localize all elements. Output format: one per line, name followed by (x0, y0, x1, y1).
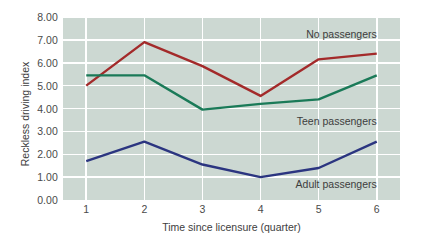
series-lines (63, 17, 400, 200)
x-tick-label: 4 (246, 203, 276, 215)
series-line (86, 42, 377, 96)
series-label-no-passengers: No passengers (306, 28, 377, 40)
y-tick-label: 0.00 (0, 194, 58, 206)
x-tick-label: 2 (129, 203, 159, 215)
chart-figure: 0.001.002.003.004.005.006.007.008.00 Rec… (0, 0, 423, 242)
y-tick-label: 8.00 (0, 11, 58, 23)
x-tick-label: 5 (304, 203, 334, 215)
series-label-adult-passengers: Adult passengers (296, 178, 377, 190)
y-axis-title: Reckless driving index (19, 34, 31, 194)
x-tick-label: 6 (362, 203, 392, 215)
series-label-teen-passengers: Teen passengers (297, 115, 377, 127)
x-axis-ticklabels: 123456 (63, 203, 400, 219)
x-axis-title: Time since licensure (quarter) (63, 221, 400, 233)
x-tick-label: 3 (187, 203, 217, 215)
plot-area (63, 17, 400, 200)
series-line (86, 142, 377, 177)
x-tick-label: 1 (71, 203, 101, 215)
